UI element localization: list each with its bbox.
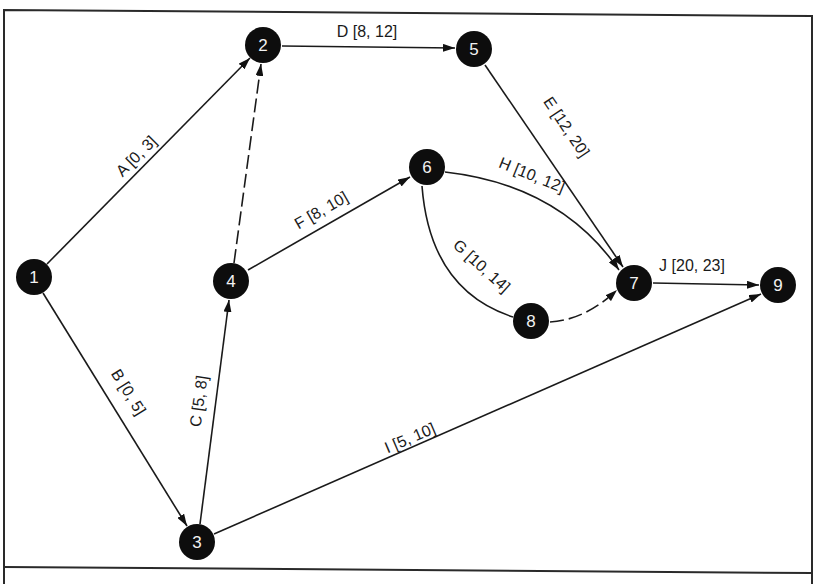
node-1: 1	[16, 259, 52, 295]
node-label-9: 9	[773, 276, 782, 295]
node-label-7: 7	[629, 274, 638, 293]
edge-label-D: D [8, 12]	[337, 23, 397, 40]
edge-dummy-8-7	[550, 290, 617, 322]
diagram-frame-bottom	[4, 567, 812, 573]
node-5: 5	[456, 31, 492, 67]
node-label-2: 2	[258, 36, 267, 55]
node-9: 9	[760, 267, 796, 303]
edge-label-H: H [10, 12]	[497, 154, 568, 196]
edge-label-J: J [20, 23]	[659, 257, 725, 274]
edge-label-F: F [8, 10]	[292, 188, 351, 232]
node-3: 3	[179, 524, 215, 560]
node-4: 4	[213, 263, 249, 299]
edge-J	[653, 283, 759, 285]
edge-F	[248, 177, 410, 270]
diagram-frame	[4, 10, 812, 584]
nodes: 1 2 3 4 5 6 7 8	[16, 27, 796, 560]
network-diagram: A [0, 3] B [0, 5] C [5, 8] D [8, 12] E […	[0, 0, 814, 584]
edge-labels: A [0, 3] B [0, 5] C [5, 8] D [8, 12] E […	[108, 23, 725, 456]
node-7: 7	[616, 265, 652, 301]
edge-label-I: I [5, 10]	[382, 420, 438, 457]
edge-I	[214, 294, 761, 534]
node-2: 2	[245, 27, 281, 63]
edge-label-G: G [10, 14]	[450, 236, 514, 296]
node-label-3: 3	[192, 533, 201, 552]
edge-label-C: C [5, 8]	[187, 375, 211, 428]
node-label-4: 4	[226, 272, 235, 291]
node-label-5: 5	[469, 40, 478, 59]
edge-D	[282, 46, 455, 48]
edge-B	[43, 293, 187, 526]
node-8: 8	[513, 303, 549, 339]
edge-dummy-4-2	[234, 64, 261, 263]
node-label-1: 1	[29, 268, 38, 287]
edge-A	[47, 58, 250, 264]
node-6: 6	[409, 149, 445, 185]
edge-label-B: B [0, 5]	[108, 366, 149, 418]
edge-label-E: E [12, 20]	[540, 94, 592, 160]
node-label-8: 8	[526, 312, 535, 331]
edges	[43, 46, 761, 534]
node-label-6: 6	[422, 158, 431, 177]
